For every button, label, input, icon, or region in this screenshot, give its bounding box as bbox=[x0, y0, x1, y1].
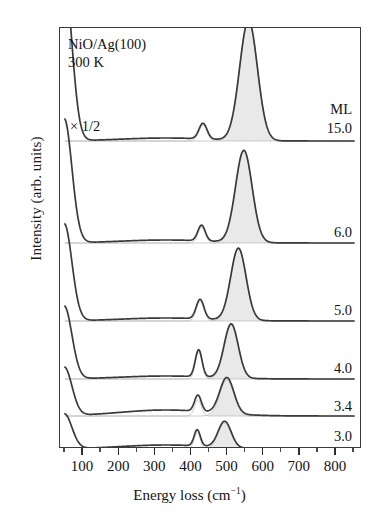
ml-column-header: ML bbox=[330, 101, 352, 118]
measured-spectrum-line bbox=[65, 119, 354, 243]
x-tick-major bbox=[190, 448, 191, 455]
x-tick-label: 800 bbox=[324, 458, 347, 475]
x-tick-minor bbox=[99, 448, 100, 452]
x-tick-label: 500 bbox=[215, 458, 238, 475]
y-axis-label: Intensity (arb. units) bbox=[28, 59, 45, 339]
x-axis-title-prefix: Energy loss (cm bbox=[133, 487, 230, 503]
x-tick-label: 600 bbox=[251, 458, 274, 475]
x-tick-major bbox=[298, 448, 299, 455]
fitted-component-narrow bbox=[65, 352, 354, 379]
x-axis-tick-labels: 100200300400500600700800 bbox=[59, 458, 361, 480]
fitted-component-filled bbox=[65, 249, 354, 321]
spectrum-trace-3-4 bbox=[65, 367, 354, 416]
spectra-curves bbox=[60, 28, 361, 448]
x-tick-label: 100 bbox=[71, 458, 94, 475]
x-tick-major bbox=[226, 448, 227, 455]
fitted-component-filled bbox=[65, 325, 354, 379]
x-axis-ticks bbox=[59, 448, 361, 457]
x-tick-minor bbox=[136, 448, 137, 452]
x-tick-major bbox=[118, 448, 119, 455]
x-tick-minor bbox=[280, 448, 281, 452]
fitted-component-filled-outline bbox=[65, 151, 354, 243]
x-tick-minor bbox=[352, 448, 353, 452]
x-tick-label: 200 bbox=[107, 458, 130, 475]
sample-label: NiO/Ag(100) bbox=[68, 36, 146, 54]
series-label-6: 6.0 bbox=[334, 224, 352, 241]
x-tick-label: 400 bbox=[179, 458, 202, 475]
x-tick-major bbox=[334, 448, 335, 455]
x-tick-minor bbox=[316, 448, 317, 452]
x-tick-major bbox=[262, 448, 263, 455]
x-tick-label: 300 bbox=[143, 458, 166, 475]
x-tick-label: 700 bbox=[288, 458, 311, 475]
series-label-3-4: 3.4 bbox=[334, 398, 352, 415]
scale-factor-label: × 1/2 bbox=[70, 118, 100, 136]
fitted-component-filled-outline bbox=[65, 325, 354, 379]
measured-spectrum-line bbox=[65, 367, 354, 416]
series-label-5: 5.0 bbox=[334, 302, 352, 319]
x-tick-minor bbox=[172, 448, 173, 452]
x-tick-major bbox=[81, 448, 82, 455]
measured-spectrum-line bbox=[65, 414, 354, 448]
x-tick-minor bbox=[63, 448, 64, 452]
series-label-3: 3.0 bbox=[334, 428, 352, 445]
x-axis-title: Energy loss (cm−1) bbox=[0, 486, 379, 504]
x-tick-minor bbox=[244, 448, 245, 452]
fitted-component-narrow bbox=[65, 227, 354, 243]
x-tick-major bbox=[154, 448, 155, 455]
x-axis-title-suffix: ) bbox=[241, 487, 246, 503]
x-axis-title-exponent: −1 bbox=[231, 486, 241, 496]
spectrum-trace-6-0 bbox=[65, 119, 354, 243]
x-tick-minor bbox=[208, 448, 209, 452]
series-label-4: 4.0 bbox=[334, 360, 352, 377]
spectrum-trace-3-0 bbox=[65, 414, 354, 448]
temperature-label: 300 K bbox=[68, 54, 104, 72]
plot-area: NiO/Ag(100) 300 K × 1/2 ML 15.0 6.0 5.0 … bbox=[59, 27, 361, 448]
fitted-component-filled bbox=[65, 151, 354, 243]
fitted-component-filled-outline bbox=[65, 249, 354, 321]
series-label-15: 15.0 bbox=[327, 120, 352, 137]
hreels-spectra-figure: Intensity (arb. units) NiO/Ag(100) 300 K… bbox=[0, 0, 379, 531]
